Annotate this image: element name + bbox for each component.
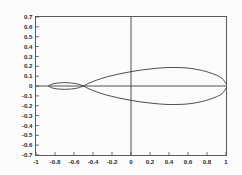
- y-tick-label: 0.5: [24, 33, 33, 40]
- curve-large-lens-upper: [84, 67, 227, 86]
- x-tick-label: 0.6: [184, 158, 193, 165]
- curve-small-lens-upper: [48, 83, 83, 86]
- x-tick-label: 0.2: [146, 158, 155, 165]
- y-tick-label: -0.3: [22, 112, 33, 119]
- curve-small-lens-lower: [48, 86, 83, 89]
- x-tick-label: -0.6: [69, 158, 80, 165]
- x-tick-label: 0.8: [203, 158, 212, 165]
- x-tick-labels: -1-0.8-0.6-0.4-0.200.20.40.60.81: [33, 158, 228, 165]
- y-tick-label: -0.7: [22, 151, 33, 158]
- y-tick-label: -0.6: [22, 141, 33, 148]
- x-tick-label: -0.4: [88, 158, 99, 165]
- y-tick-label: 0.1: [24, 72, 33, 79]
- chart-figure: -0.7-0.6-0.5-0.4-0.3-0.2-0.100.10.20.30.…: [0, 0, 242, 175]
- x-tick-label: -1: [33, 158, 39, 165]
- x-tick-label: 0.4: [165, 158, 174, 165]
- x-tick-label: -0.8: [50, 158, 61, 165]
- x-tick-label: 1: [224, 158, 228, 165]
- x-tick-label: 0: [129, 158, 133, 165]
- plot-area: -0.7-0.6-0.5-0.4-0.3-0.2-0.100.10.20.30.…: [0, 0, 242, 175]
- y-tick-label: 0: [29, 82, 33, 89]
- y-tick-labels: -0.7-0.6-0.5-0.4-0.3-0.2-0.100.10.20.30.…: [22, 13, 33, 158]
- y-tick-label: 0.2: [24, 62, 33, 69]
- y-tick-label: -0.2: [22, 102, 33, 109]
- curve-large-lens-lower: [84, 86, 227, 105]
- x-tick-label: -0.2: [107, 158, 118, 165]
- y-tick-label: 0.4: [24, 43, 33, 50]
- y-tick-label: 0.6: [24, 23, 33, 30]
- y-tick-label: -0.4: [22, 122, 33, 129]
- y-tick-label: 0.7: [24, 13, 33, 20]
- y-tick-label: -0.1: [22, 92, 33, 99]
- y-tick-label: 0.3: [24, 53, 33, 60]
- y-tick-label: -0.5: [22, 131, 33, 138]
- zero-axis-lines: [36, 17, 226, 155]
